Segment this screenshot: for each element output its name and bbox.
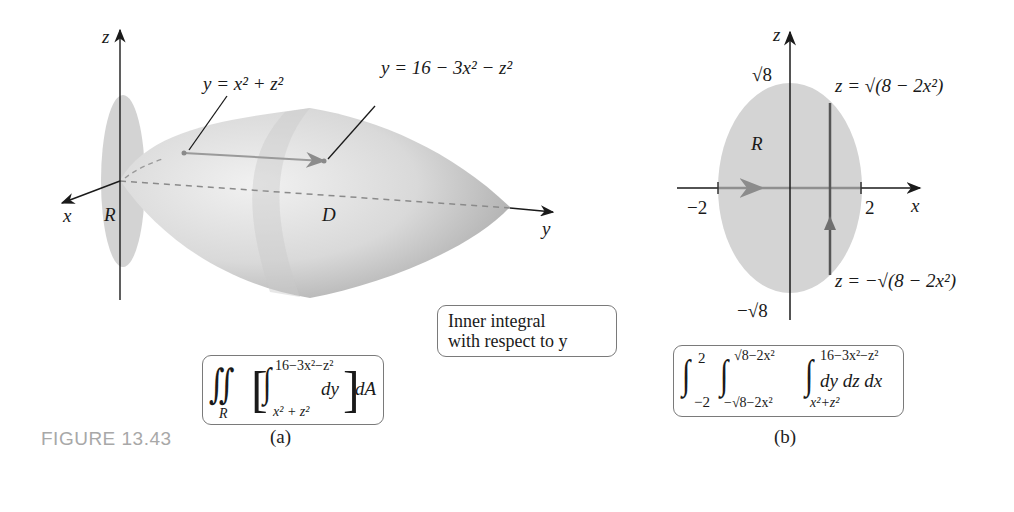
integral-box-a: ∬ R [ ∫ 16−3x²−z² x² + z² dy ] dA: [202, 355, 384, 425]
note-line-1: Inner integral: [448, 311, 606, 331]
z-axis-label-b: z: [773, 24, 780, 46]
y-axis-a: [510, 208, 553, 212]
caption-a: (a): [270, 426, 291, 448]
z-integral-sign: ∫: [720, 352, 728, 398]
y-lower-limit: x²+z²: [810, 395, 840, 411]
y-upper-limit: 16−3x²−z²: [820, 348, 878, 364]
surface-lower-label: y = x² + z²: [203, 73, 283, 95]
tick-x-neg: −2: [687, 197, 707, 219]
boundary-upper-label: z = √(8 − 2x²): [835, 75, 943, 97]
x-integral-sign: ∫: [682, 352, 690, 398]
region-label-b: R: [751, 133, 763, 155]
inner-integral-sign: ∫: [263, 360, 271, 406]
y-integral-sign: ∫: [805, 352, 813, 398]
x-lower-limit: −2: [694, 394, 710, 411]
z-upper-limit: √8−2x²: [734, 348, 775, 364]
outer-differential: dA: [355, 378, 376, 400]
x-upper-limit: 2: [698, 350, 706, 367]
caption-b: (b): [774, 426, 796, 448]
z-lower-limit: −√8−2x²: [724, 395, 773, 411]
z-axis-label-a: z: [102, 26, 109, 48]
tick-z-neg: −√8: [737, 300, 768, 322]
surface-upper-label: y = 16 − 3x² − z²: [381, 57, 512, 79]
figure-label: FIGURE 13.43: [41, 428, 172, 450]
solid-label: D: [322, 204, 336, 226]
inner-upper-limit: 16−3x²−z²: [275, 358, 333, 374]
inner-integrand: dy: [321, 378, 339, 400]
solid-d: [120, 108, 510, 298]
inner-integral-note: Inner integral with respect to y: [437, 305, 617, 357]
outer-subscript-r: R: [219, 406, 228, 422]
inner-lower-limit: x² + z²: [273, 404, 310, 420]
double-integral-sign: ∬: [209, 360, 235, 407]
note-line-2: with respect to y: [448, 331, 606, 351]
boundary-lower-label: z = −√(8 − 2x²): [835, 270, 956, 292]
integrand-b: dy dz dx: [820, 370, 882, 392]
x-axis-label-b: x: [911, 195, 919, 217]
tick-z-pos: √8: [752, 64, 772, 86]
region-label-a: R: [104, 204, 116, 226]
integral-box-b: ∫ 2 −2 ∫ √8−2x² −√8−2x² ∫ 16−3x²−z² x²+z…: [673, 345, 904, 417]
tick-x-pos: 2: [865, 197, 875, 219]
x-axis-label-a: x: [63, 205, 71, 227]
y-axis-label-a: y: [542, 218, 550, 240]
